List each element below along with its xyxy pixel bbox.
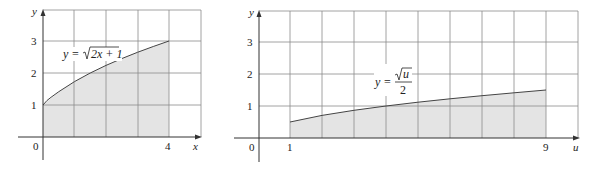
right-u-tick-9: 9 <box>543 141 549 153</box>
left-y-tick-2: 2 <box>31 67 37 79</box>
svg-text:u: u <box>403 67 409 81</box>
left-y-tick-1: 1 <box>31 99 37 111</box>
right-x-arrow-icon <box>573 136 580 141</box>
left-origin-label: 0 <box>33 140 39 152</box>
right-y-tick-1: 1 <box>247 100 253 112</box>
right-x-label: u <box>573 141 579 153</box>
left-x-tick-4: 4 <box>165 140 171 152</box>
right-origin-label: 0 <box>249 141 255 153</box>
left-y-tick-3: 3 <box>31 35 37 47</box>
right-y-tick-3: 3 <box>247 36 253 48</box>
left-chart: y x 0 4 1 2 3 y = 2x + 1 <box>18 5 202 160</box>
right-y-label: y <box>248 6 254 18</box>
left-equation: y = 2x + 1 <box>62 47 122 61</box>
right-y-tick-2: 2 <box>247 68 253 80</box>
left-y-label: y <box>31 5 37 17</box>
left-x-label: x <box>192 140 198 152</box>
svg-text:2x + 1: 2x + 1 <box>91 47 122 61</box>
svg-text:y =: y = <box>62 47 79 61</box>
svg-text:y =: y = <box>374 75 391 89</box>
right-u-tick-1: 1 <box>287 141 293 153</box>
figure: y x 0 4 1 2 3 y = 2x + 1 <box>0 0 604 169</box>
right-chart: y u 0 1 9 1 2 3 y = u 2 <box>234 6 580 162</box>
svg-text:2: 2 <box>400 83 406 97</box>
right-equation: y = u 2 <box>374 64 412 97</box>
